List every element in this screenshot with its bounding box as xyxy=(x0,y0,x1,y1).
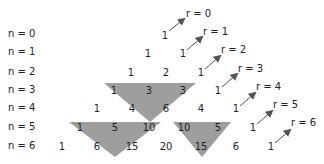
cell-n6-r2: 15 xyxy=(126,141,139,152)
cell-n0-r0: 1 xyxy=(162,30,168,41)
r-label-3: r = 3 xyxy=(238,63,263,74)
cell-n4-r3: 4 xyxy=(198,103,204,114)
cell-n5-r1: 5 xyxy=(112,122,118,133)
arrow-r0 xyxy=(169,19,184,31)
arrow-r2 xyxy=(205,56,220,69)
cell-n6-r0: 1 xyxy=(59,141,65,152)
r-label-6: r = 6 xyxy=(291,117,316,128)
cell-n4-r0: 1 xyxy=(94,103,100,114)
row-label-n5: n = 5 xyxy=(8,121,35,132)
cell-n3-r1: 3 xyxy=(146,85,152,96)
cell-n2-r1: 2 xyxy=(163,67,169,78)
cell-n6-r6: 1 xyxy=(268,141,274,152)
cell-n5-r4: 5 xyxy=(215,122,221,133)
cell-n2-r2: 1 xyxy=(198,67,204,78)
cell-n3-r3: 1 xyxy=(215,85,221,96)
row-label-n0: n = 0 xyxy=(8,28,35,39)
arrow-r3 xyxy=(222,74,237,87)
cell-n1-r0: 1 xyxy=(145,48,151,59)
row-label-n3: n = 3 xyxy=(8,84,35,95)
r-label-2: r = 2 xyxy=(221,44,246,55)
arrow-r5 xyxy=(257,111,272,124)
cell-n6-r5: 6 xyxy=(233,141,239,152)
cell-n1-r1: 1 xyxy=(180,48,186,59)
arrow-r6 xyxy=(275,130,290,143)
arrow-r4 xyxy=(240,93,255,106)
r-label-1: r = 1 xyxy=(203,26,228,37)
row-label-n6: n = 6 xyxy=(8,140,35,151)
cell-n4-r1: 4 xyxy=(129,103,135,114)
r-label-5: r = 5 xyxy=(273,99,298,110)
r-label-4: r = 4 xyxy=(256,81,281,92)
cell-n6-r3: 20 xyxy=(160,141,173,152)
cell-n2-r0: 1 xyxy=(128,67,134,78)
cell-n4-r4: 1 xyxy=(233,103,239,114)
cell-n5-r2: 10 xyxy=(143,122,156,133)
cell-n6-r1: 6 xyxy=(94,141,100,152)
cell-n5-r3: 10 xyxy=(178,122,191,133)
cell-n3-r2: 3 xyxy=(180,85,186,96)
arrow-r1 xyxy=(187,37,202,50)
row-label-n2: n = 2 xyxy=(8,66,35,77)
cell-n5-r5: 1 xyxy=(250,122,256,133)
row-label-n1: n = 1 xyxy=(8,46,35,57)
cell-n6-r4: 15 xyxy=(195,141,208,152)
cell-n5-r0: 1 xyxy=(77,122,83,133)
cell-n4-r2: 6 xyxy=(163,103,169,114)
row-label-n4: n = 4 xyxy=(8,102,35,113)
r-label-0: r = 0 xyxy=(186,8,211,19)
cell-n3-r0: 1 xyxy=(111,85,117,96)
